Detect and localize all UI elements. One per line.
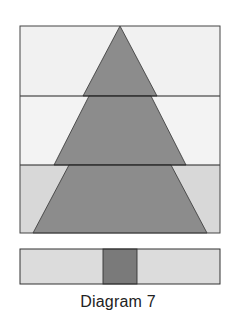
trunk-strip (20, 249, 220, 284)
tree-diagram (0, 0, 236, 290)
diagram-caption: Diagram 7 (0, 293, 236, 311)
tree-block (20, 26, 220, 233)
trunk-square (103, 249, 137, 284)
